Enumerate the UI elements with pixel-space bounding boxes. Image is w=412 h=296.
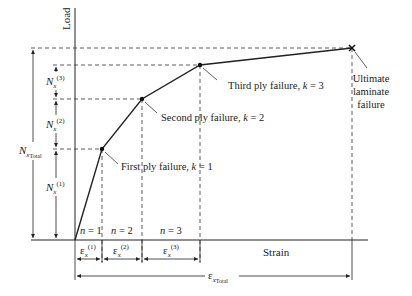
- ultimate-label: Ultimate laminate failure: [353, 73, 390, 110]
- leader-lines: [105, 52, 367, 164]
- laminate-failure-diagram: First ply failure, k = 1 Second ply fail…: [0, 0, 412, 296]
- third-ply-point: [198, 63, 202, 67]
- svg-text:Ultimate: Ultimate: [353, 73, 390, 84]
- second-ply-label: Second ply failure, k = 2: [161, 112, 264, 123]
- second-ply-point: [140, 97, 144, 101]
- first-ply-point: [100, 147, 104, 151]
- y-axis-label: Load: [60, 7, 72, 30]
- region-n2: n = 2: [111, 225, 133, 236]
- first-ply-label: First ply failure, k = 1: [121, 161, 213, 172]
- svg-text:failure: failure: [357, 99, 385, 110]
- x-axis-label: Strain: [263, 246, 290, 258]
- region-n3: n = 3: [160, 225, 182, 236]
- region-n1: n = 1: [80, 225, 102, 236]
- horizontal-guides: [31, 48, 352, 149]
- svg-text:laminate: laminate: [353, 86, 389, 97]
- third-ply-label: Third ply failure, k = 3: [228, 80, 324, 91]
